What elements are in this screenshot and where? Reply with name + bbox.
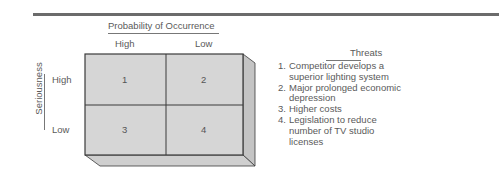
matrix-box: [0, 0, 499, 180]
threat-item: 4. Legislation to reducenumber of TV stu…: [278, 115, 401, 147]
threat-list: 1. Competitor develops asuperior lightin…: [278, 61, 401, 147]
threat-item: 2. Major prolonged economicdepression: [278, 83, 401, 105]
matrix-cell-1: 1: [122, 74, 127, 85]
threat-item: 1. Competitor develops asuperior lightin…: [278, 61, 401, 83]
matrix-cell-2: 2: [201, 74, 206, 85]
matrix-cell-4: 4: [201, 124, 206, 135]
matrix-cell-3: 3: [122, 124, 127, 135]
threats-title: Threats: [350, 47, 382, 58]
